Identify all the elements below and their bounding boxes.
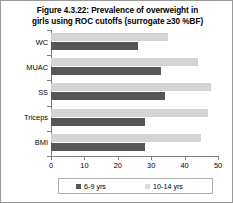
y-axis-tick (47, 106, 51, 107)
y-axis-tick (47, 55, 51, 56)
bar-10-14-yrs (51, 58, 198, 66)
bar-6-9-yrs (51, 67, 161, 75)
bar-6-9-yrs (51, 143, 145, 151)
bar-group (51, 55, 218, 80)
category-label-triceps: Triceps (2, 113, 48, 122)
x-axis-tick-mark (51, 156, 52, 160)
x-axis-tick-label-0: 0 (49, 161, 53, 170)
x-axis-tick-mark (151, 156, 152, 160)
legend-swatch-icon-6-9-yrs (76, 184, 81, 189)
x-axis-ticks: 01020304050 (1, 160, 233, 174)
bar-group (51, 30, 218, 55)
chart-title-line-1: Figure 4.3.22: Prevalence of overweight … (9, 5, 226, 16)
bar-group (51, 80, 218, 105)
x-axis-tick-mark (218, 156, 219, 160)
chart-figure: Figure 4.3.22: Prevalence of overweight … (0, 0, 233, 203)
y-axis-tick (47, 80, 51, 81)
x-axis-line (51, 156, 219, 157)
x-axis-tick-label-10: 10 (80, 161, 88, 170)
x-axis-tick-label-50: 50 (214, 161, 222, 170)
bar-6-9-yrs (51, 118, 145, 126)
legend-label-10-14-yrs: 10-14 yrs (153, 182, 183, 191)
bar-6-9-yrs (51, 92, 165, 100)
bar-10-14-yrs (51, 109, 208, 117)
x-axis-tick-mark (118, 156, 119, 160)
bar-6-9-yrs (51, 42, 138, 50)
category-label-wc: WC (2, 38, 48, 47)
chart-title: Figure 4.3.22: Prevalence of overweight … (9, 5, 226, 27)
bar-group (51, 131, 218, 156)
chart-title-line-2: girls using ROC cutoffs (surrogate ≥30 %… (9, 16, 226, 27)
y-axis-tick (47, 30, 51, 31)
legend-item-10-14-yrs: 10-14 yrs (145, 182, 183, 191)
plot-wrapper: WCMUACSSTricepsBMI (1, 30, 233, 160)
x-axis-tick-label-20: 20 (114, 161, 122, 170)
x-axis-tick-mark (185, 156, 186, 160)
x-axis-tick-label-30: 30 (147, 161, 155, 170)
category-label-ss: SS (2, 88, 48, 97)
bar-10-14-yrs (51, 33, 168, 41)
chart-legend: 6-9 yrs 10-14 yrs (58, 178, 213, 194)
bar-10-14-yrs (51, 134, 201, 142)
legend-swatch-icon-10-14-yrs (145, 184, 150, 189)
plot-area (51, 30, 218, 156)
x-axis-tick-mark (84, 156, 85, 160)
x-axis-tick-label-40: 40 (180, 161, 188, 170)
legend-item-6-9-yrs: 6-9 yrs (76, 182, 106, 191)
legend-label-6-9-yrs: 6-9 yrs (84, 182, 106, 191)
category-label-muac: MUAC (2, 63, 48, 72)
bar-10-14-yrs (51, 83, 211, 91)
bar-group (51, 106, 218, 131)
category-label-bmi: BMI (2, 138, 48, 147)
y-axis-tick (47, 131, 51, 132)
